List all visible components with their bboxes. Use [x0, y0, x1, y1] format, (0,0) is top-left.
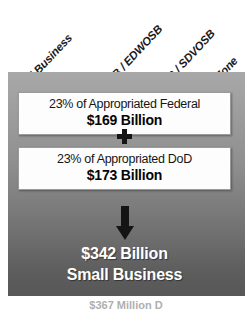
total-amount: $342 Billion: [8, 243, 241, 264]
arrow-head: [116, 226, 134, 240]
dod-value-box: 23% of Appropriated DoD $173 Billion: [18, 147, 231, 190]
plus-operator: [8, 129, 241, 145]
arrow-shaft: [121, 206, 129, 228]
dod-description: 23% of Appropriated DoD: [21, 152, 228, 167]
calculation-panel: 23% of Appropriated Federal $169 Billion…: [8, 72, 245, 296]
federal-amount: $169 Billion: [21, 112, 228, 129]
footer-caption: $367 Million D: [8, 299, 244, 310]
total-block: $342 Billion Small Business: [8, 243, 241, 285]
down-arrow-icon: [8, 206, 241, 242]
dod-amount: $173 Billion: [21, 167, 228, 184]
infographic-root: Small Business 8(a) WOSB / EDWOSB VOSB /…: [0, 0, 245, 311]
federal-description: 23% of Appropriated Federal: [21, 97, 228, 112]
total-subject: Small Business: [8, 264, 241, 285]
plus-icon: [117, 129, 132, 144]
